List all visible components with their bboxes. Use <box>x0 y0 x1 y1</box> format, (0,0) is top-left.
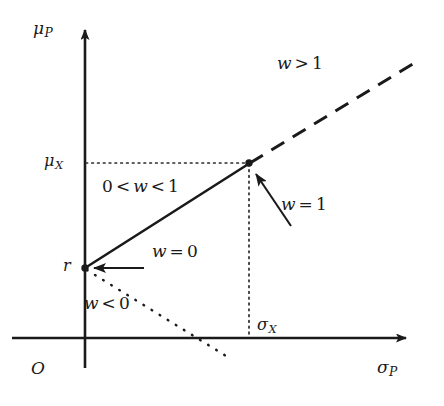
portfolio-x-dot <box>245 159 252 166</box>
w-one-var: w <box>281 194 296 214</box>
w-neg-op: < <box>102 293 116 313</box>
y-axis-label: μP <box>33 20 53 40</box>
figure-container: μP σP O μX σX r 0<w<1 w=0 w<0 w=1 w>1 <box>0 0 444 406</box>
sigma-x-tick-label: σX <box>257 317 277 336</box>
diagram-canvas <box>0 0 444 406</box>
dotted-negative-line <box>87 270 226 356</box>
w-neg-var: w <box>84 293 99 313</box>
x-axis-subscript: P <box>389 365 397 379</box>
r-intercept-dot <box>81 264 88 271</box>
w-between-var: w <box>133 176 148 196</box>
w-zero-value: 0 <box>187 241 198 261</box>
w-one-value: 1 <box>316 194 327 214</box>
x-axis-symbol: σ <box>377 357 389 377</box>
r-intercept-label: r <box>63 258 71 274</box>
mu-x-symbol: μ <box>44 151 54 170</box>
y-axis-subscript: P <box>45 26 53 40</box>
mu-x-tick-label: μX <box>44 153 63 172</box>
annotation-w-greater-one: w>1 <box>277 55 323 72</box>
w-between-left: 0 <box>102 176 113 196</box>
w-zero-op: = <box>170 241 184 261</box>
w-gt-op: > <box>295 53 309 73</box>
mu-x-subscript: X <box>55 158 63 172</box>
x-axis-label: σP <box>377 359 397 379</box>
w-one-op: = <box>299 194 313 214</box>
w-neg-value: 0 <box>119 293 130 313</box>
w-between-op2: < <box>151 176 165 196</box>
w-gt-var: w <box>277 53 292 73</box>
origin-label: O <box>31 360 45 377</box>
annotation-w-negative: w<0 <box>84 295 130 312</box>
annotation-w-between: 0<w<1 <box>102 178 179 195</box>
annotation-w-equals-zero: w=0 <box>152 243 198 260</box>
w-gt-value: 1 <box>312 53 323 73</box>
dashed-leverage-line <box>250 62 416 163</box>
w-between-op1: < <box>116 176 130 196</box>
w-between-right: 1 <box>168 176 179 196</box>
annotation-w-equals-one: w=1 <box>281 196 327 213</box>
sigma-x-symbol: σ <box>257 315 268 334</box>
w-zero-var: w <box>152 241 167 261</box>
sigma-x-subscript: X <box>268 322 276 336</box>
y-axis-symbol: μ <box>33 18 44 38</box>
